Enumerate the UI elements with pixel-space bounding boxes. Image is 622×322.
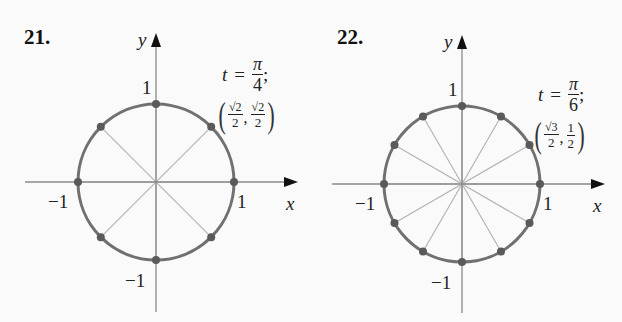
t-variable: t [538, 85, 543, 104]
coord-y-fraction: √2 2 [251, 101, 266, 129]
y-axis-label: y [444, 32, 452, 51]
problem-number: 22. [337, 27, 363, 48]
x-axis-label: x [286, 194, 294, 213]
coord-comma: , [560, 129, 564, 147]
y-tick-neg: −1 [431, 273, 451, 292]
figure-22: 22. y x 1 −1 −1 1 t = π 6 ; ( √3 2 , 1 2… [311, 0, 622, 322]
open-paren: ( [218, 97, 225, 133]
semicolon: ; [263, 65, 268, 84]
point-annotation: t = π 4 ; ( √2 2 , √2 2 ) [222, 55, 277, 133]
semicolon: ; [579, 85, 584, 104]
angle-fraction: π 4 [252, 55, 263, 94]
x-axis-arrow-icon [591, 179, 605, 189]
coord-comma: , [244, 109, 248, 127]
coord-x-fraction: √3 2 [544, 121, 559, 149]
x-tick-neg: −1 [355, 194, 375, 213]
point-annotation: t = π 6 ; ( √3 2 , 1 2 ) [538, 75, 587, 153]
open-paren: ( [534, 117, 541, 153]
y-axis-arrow-icon [457, 35, 467, 49]
coordinate-pair: ( √2 2 , √2 2 ) [216, 97, 277, 133]
x-tick-neg: −1 [48, 192, 68, 211]
equals-sign: = [234, 65, 245, 84]
t-equation: t = π 6 ; [538, 75, 587, 114]
y-tick-neg: −1 [125, 271, 145, 290]
y-axis-arrow-icon [151, 33, 161, 47]
x-axis-arrow-icon [284, 177, 298, 187]
y-tick-pos: 1 [448, 80, 458, 99]
coord-x-fraction: √2 2 [228, 101, 243, 129]
t-variable: t [222, 65, 227, 84]
y-tick-pos: 1 [142, 78, 152, 97]
t-equation: t = π 4 ; [222, 55, 277, 94]
coordinate-pair: ( √3 2 , 1 2 ) [532, 117, 587, 153]
y-axis-label: y [138, 30, 146, 49]
close-paren: ) [577, 117, 584, 153]
x-tick-pos: 1 [543, 194, 553, 213]
figure-21: 21. y x 1 −1 −1 1 t = π 4 ; ( √2 2 , √2 … [0, 0, 311, 322]
equals-sign: = [550, 85, 561, 104]
problem-number: 21. [24, 27, 50, 48]
x-tick-pos: 1 [237, 192, 247, 211]
angle-fraction: π 6 [568, 75, 579, 114]
close-paren: ) [268, 97, 275, 133]
coord-y-fraction: 1 2 [567, 121, 576, 150]
x-axis-label: x [593, 196, 601, 215]
